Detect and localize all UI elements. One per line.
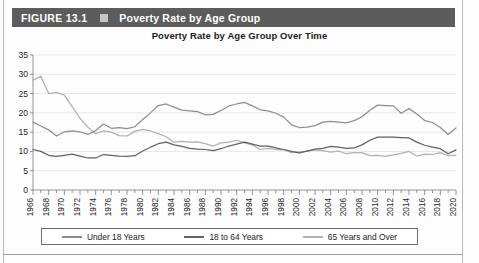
svg-text:2010: 2010 xyxy=(371,198,380,217)
chart-legend: Under 18 Years 18 to 64 Years 65 Years a… xyxy=(41,228,418,245)
svg-text:2012: 2012 xyxy=(386,198,395,217)
svg-text:10: 10 xyxy=(18,146,28,156)
legend-item-18-to-64: 18 to 64 Years xyxy=(184,232,263,242)
figure-page: FIGURE 13.1 Poverty Rate by Age Group Po… xyxy=(0,0,479,263)
line-chart: 0510152025303519661968197019721974197619… xyxy=(0,0,479,263)
legend-item-65-and-over: 65 Years and Over xyxy=(303,232,397,242)
svg-text:2020: 2020 xyxy=(449,198,458,217)
svg-text:25: 25 xyxy=(18,89,28,99)
svg-text:2014: 2014 xyxy=(402,198,411,217)
svg-text:1984: 1984 xyxy=(167,198,176,217)
svg-text:30: 30 xyxy=(18,69,28,79)
svg-text:1966: 1966 xyxy=(26,198,35,217)
legend-label-under-18: Under 18 Years xyxy=(87,232,145,242)
svg-text:1974: 1974 xyxy=(89,198,98,217)
svg-text:2004: 2004 xyxy=(324,198,333,217)
chart-plot-area: 0510152025303519661968197019721974197619… xyxy=(0,0,479,263)
svg-text:1986: 1986 xyxy=(183,198,192,217)
svg-text:15: 15 xyxy=(18,127,28,137)
svg-text:5: 5 xyxy=(23,166,28,176)
svg-text:2018: 2018 xyxy=(433,198,442,217)
svg-text:20: 20 xyxy=(18,108,28,118)
svg-text:2006: 2006 xyxy=(339,198,348,217)
svg-text:1990: 1990 xyxy=(214,198,223,217)
legend-swatch-65-and-over xyxy=(303,236,323,238)
legend-swatch-18-to-64 xyxy=(184,236,204,238)
svg-text:1976: 1976 xyxy=(104,198,113,217)
legend-label-18-to-64: 18 to 64 Years xyxy=(209,232,263,242)
svg-text:1996: 1996 xyxy=(261,198,270,217)
svg-text:1980: 1980 xyxy=(136,198,145,217)
svg-text:2000: 2000 xyxy=(292,198,301,217)
svg-text:1994: 1994 xyxy=(245,198,254,217)
legend-swatch-under-18 xyxy=(62,236,82,238)
legend-item-under-18: Under 18 Years xyxy=(62,232,145,242)
svg-text:1988: 1988 xyxy=(198,198,207,217)
svg-text:35: 35 xyxy=(18,50,28,60)
legend-label-65-and-over: 65 Years and Over xyxy=(328,232,397,242)
svg-text:2008: 2008 xyxy=(355,198,364,217)
svg-text:1968: 1968 xyxy=(42,198,51,217)
svg-text:0: 0 xyxy=(23,185,28,195)
svg-text:1998: 1998 xyxy=(277,198,286,217)
svg-text:1978: 1978 xyxy=(120,198,129,217)
svg-text:2016: 2016 xyxy=(418,198,427,217)
svg-text:1972: 1972 xyxy=(73,198,82,217)
svg-text:1992: 1992 xyxy=(230,198,239,217)
svg-text:1982: 1982 xyxy=(151,198,160,217)
svg-text:2002: 2002 xyxy=(308,198,317,217)
svg-text:1970: 1970 xyxy=(57,198,66,217)
